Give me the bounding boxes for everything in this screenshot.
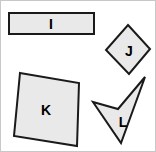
shape-label-j: J: [125, 43, 133, 59]
shape-dart-l: [93, 77, 145, 143]
shapes-canvas: I J K L: [1, 1, 156, 152]
shape-label-l: L: [119, 114, 128, 130]
shape-label-i: I: [49, 16, 53, 32]
shape-label-k: K: [41, 102, 51, 118]
geometry-figure: I J K L: [0, 0, 156, 152]
